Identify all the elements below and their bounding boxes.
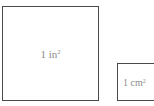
- square-centimeter: 1 cm2: [117, 63, 154, 101]
- square-centimeter-label: 1 cm2: [123, 77, 146, 88]
- exponent: 2: [57, 48, 60, 55]
- square-inch-label: 1 in2: [40, 48, 60, 60]
- unit: cm: [131, 77, 143, 88]
- unit: in: [49, 48, 58, 60]
- exponent: 2: [143, 77, 146, 83]
- square-inch: 1 in2: [2, 6, 99, 101]
- value: 1: [40, 48, 46, 60]
- value: 1: [123, 77, 128, 88]
